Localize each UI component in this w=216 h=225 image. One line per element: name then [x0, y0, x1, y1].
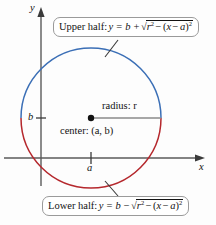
- upper-callout-prefix: Upper half:: [59, 21, 107, 32]
- center-annotation-label: center: (a, b): [60, 125, 113, 136]
- center-point-dot: [88, 115, 94, 121]
- upper-radicand-inner-minus: −: [171, 21, 180, 32]
- lower-callout-prefix: Lower half:: [48, 200, 97, 211]
- lower-callout-radical: √r2−(x−a)2: [131, 199, 183, 212]
- upper-half-callout-box: Upper half:y=b+√r2−(x−a)2: [53, 17, 199, 37]
- y-axis-tick-label-b: b: [28, 111, 33, 122]
- radius-annotation-text: radius: r: [102, 100, 137, 111]
- center-annotation-text: center: (a, b): [60, 125, 113, 136]
- upper-callout-leader-line: [105, 40, 118, 57]
- y-axis-arrowhead: [37, 7, 44, 17]
- lower-callout-base: b: [114, 200, 122, 211]
- lower-callout-lhs: y: [97, 200, 105, 211]
- x-axis-tick-label-a: a: [87, 162, 92, 173]
- lower-callout-sign: −: [122, 200, 131, 211]
- lower-callout-radicand: r2−(x−a)2: [136, 199, 183, 212]
- lower-half-callout-box: Lower half:y=b−√r2−(x−a)2: [42, 196, 189, 216]
- lower-radicand-exponent: 2: [179, 199, 182, 206]
- circle-equation-figure: y x b a radius: r center: (a, b) Upper h…: [0, 0, 216, 225]
- upper-radicand-exponent: 2: [189, 20, 192, 27]
- lower-radicand-operator: −: [144, 200, 153, 211]
- upper-callout-radicand: r2−(x−a)2: [146, 20, 193, 33]
- upper-callout-radical: √r2−(x−a)2: [141, 20, 193, 33]
- lower-callout-equals: =: [105, 200, 114, 211]
- radius-annotation-label: radius: r: [102, 100, 137, 111]
- circle-upper-half-arc: [21, 48, 161, 118]
- lower-half-equation: Lower half:y=b−√r2−(x−a)2: [48, 200, 183, 211]
- upper-callout-lhs: y: [107, 21, 115, 32]
- upper-callout-base: b: [124, 21, 132, 32]
- x-axis-label: x: [199, 161, 204, 172]
- y-axis-label: y: [30, 2, 35, 13]
- upper-callout-sign: +: [132, 21, 141, 32]
- upper-radicand-operator: −: [154, 21, 163, 32]
- upper-half-equation: Upper half:y=b+√r2−(x−a)2: [59, 21, 193, 32]
- lower-radicand-inner-minus: −: [161, 200, 170, 211]
- upper-callout-equals: =: [115, 21, 124, 32]
